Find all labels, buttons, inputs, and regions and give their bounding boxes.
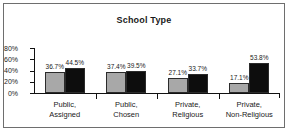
category-label-line1: Public,	[49, 100, 80, 110]
bar	[65, 68, 85, 93]
x-axis-category-label: Public,Assigned	[49, 100, 80, 119]
bar	[45, 72, 65, 93]
category-label-line1: Private,	[226, 100, 273, 110]
category-label-line1: Private,	[172, 100, 203, 110]
bar-value-label: 53.8%	[250, 54, 268, 61]
x-axis-category-label: Private,Religious	[172, 100, 203, 119]
y-axis-tick-label: 60%	[0, 56, 18, 63]
bar	[188, 74, 208, 93]
x-axis-end-cap	[279, 93, 280, 98]
x-axis-separator-tick	[219, 94, 220, 99]
y-axis-tick	[30, 48, 34, 49]
y-axis-tick-label: 40%	[0, 67, 18, 74]
y-axis-tick-label: 0%	[0, 90, 18, 97]
bar	[229, 83, 249, 93]
bar	[106, 72, 126, 93]
y-axis-tick	[30, 71, 34, 72]
y-axis-line	[34, 48, 35, 94]
category-label-line1: Public,	[113, 100, 139, 110]
category-label-line2: Religious	[172, 110, 203, 120]
y-axis-tick	[30, 93, 34, 94]
bar	[126, 71, 146, 93]
chart-frame: School Type 0%20%40%60%80% Public,Assign…	[3, 3, 285, 128]
x-axis-separator-tick	[157, 94, 158, 99]
y-axis-tick-label: 80%	[0, 45, 18, 52]
bar-value-label: 27.1%	[169, 69, 187, 76]
bar-value-label: 36.7%	[46, 63, 64, 70]
bar-value-label: 44.5%	[66, 59, 84, 66]
bar-value-label: 17.1%	[230, 74, 248, 81]
y-axis-tick	[30, 82, 34, 83]
x-axis-separator-tick	[96, 94, 97, 99]
bar	[249, 63, 269, 93]
y-axis-tick-label: 20%	[0, 78, 18, 85]
bar-value-label: 39.5%	[127, 62, 145, 69]
y-axis-tick	[30, 59, 34, 60]
category-label-line2: Assigned	[49, 110, 80, 120]
bar	[168, 78, 188, 93]
bar-value-label: 37.4%	[107, 63, 125, 70]
x-axis-category-label: Private,Non-Religious	[226, 100, 273, 119]
category-label-line2: Non-Religious	[226, 110, 273, 120]
x-axis-category-label: Public,Chosen	[113, 100, 139, 119]
category-label-line2: Chosen	[113, 110, 139, 120]
bar-value-label: 33.7%	[189, 65, 207, 72]
chart-title: School Type	[4, 15, 284, 25]
